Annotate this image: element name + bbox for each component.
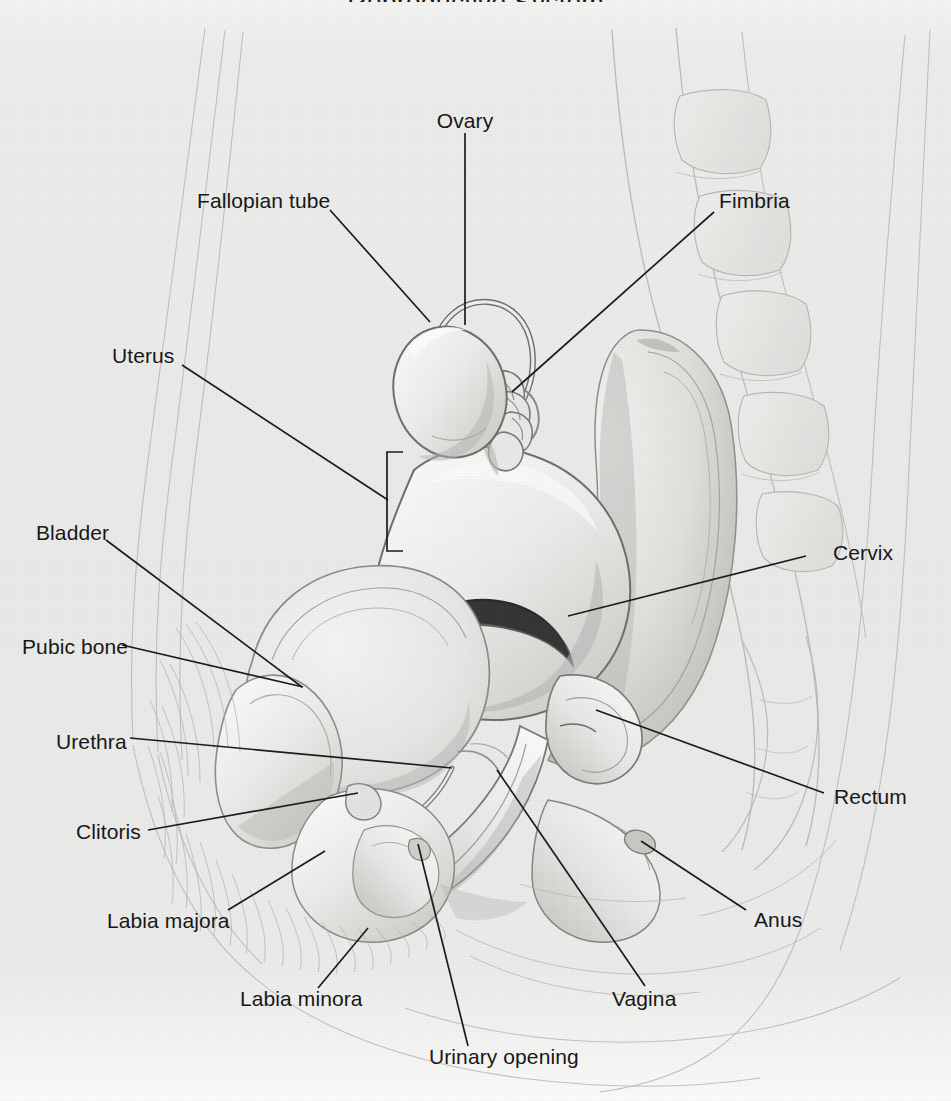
- label-clitoris-text: Clitoris: [76, 821, 141, 842]
- leader-rectum: [596, 710, 824, 793]
- leader-bladder: [106, 540, 302, 687]
- label-ovary-text: Ovary: [437, 110, 494, 131]
- label-labia-majora-text: Labia majora: [107, 910, 230, 931]
- label-fallopian-tube-text: Fallopian tube: [197, 190, 330, 211]
- label-fimbria-text: Fimbria: [719, 190, 790, 211]
- label-uterus-text: Uterus: [112, 345, 174, 366]
- leader-lines-layer: [0, 0, 951, 1101]
- leader-uterus: [182, 365, 388, 500]
- leader-fimbria: [512, 212, 714, 392]
- label-pubic-bone-text: Pubic bone: [22, 636, 128, 657]
- label-rectum-text: Rectum: [834, 786, 907, 807]
- leader-cervix: [568, 556, 806, 616]
- leader-urinary-opening: [418, 844, 468, 1046]
- leader-urethra: [130, 738, 452, 768]
- leader-anus: [641, 841, 746, 910]
- label-cervix-text: Cervix: [833, 542, 893, 563]
- label-vagina-text: Vagina: [612, 988, 676, 1009]
- diagram-page: Reproductive System: [0, 0, 951, 1101]
- leader-clitoris: [148, 793, 358, 830]
- leader-fallopian-tube: [330, 210, 430, 322]
- leader-vagina: [497, 770, 645, 986]
- label-anus-text: Anus: [754, 909, 802, 930]
- label-bladder-text: Bladder: [36, 522, 109, 543]
- label-urethra-text: Urethra: [56, 731, 127, 752]
- leader-pubic-bone: [122, 645, 303, 687]
- leader-labia-minora: [318, 928, 368, 988]
- label-urinary-opening-text: Urinary opening: [429, 1046, 579, 1067]
- label-labia-minora-text: Labia minora: [240, 988, 363, 1009]
- uterus-bracket: [387, 452, 403, 551]
- leader-labia-majora: [228, 851, 325, 910]
